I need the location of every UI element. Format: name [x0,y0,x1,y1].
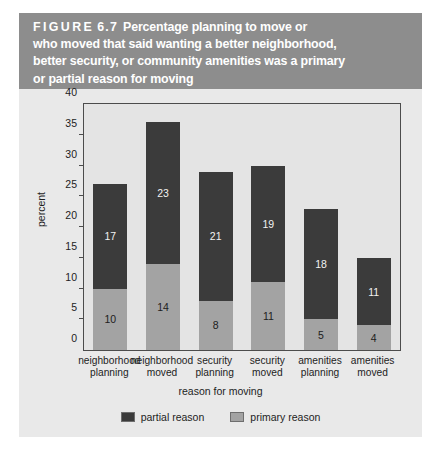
bar-value-label: 14 [146,302,180,313]
bar-value-label: 5 [304,329,338,340]
chart-legend: partial reasonprimary reason [19,411,422,423]
y-axis-tick-label: 40 [65,86,77,98]
y-axis-title: percent [35,192,47,227]
bar-value-label: 19 [251,219,285,230]
bar-group: 1911 [242,104,295,350]
chart-panel: percent 05101520253035401710231421819111… [19,89,422,437]
caption-line-4: or partial reason for moving [33,71,408,88]
y-axis-tick-label: 25 [65,178,77,190]
legend-item[interactable]: primary reason [230,411,320,423]
x-axis-tick-line: amenities [337,355,409,367]
bar-segment-partial[interactable]: 18 [304,209,338,320]
bar-segment-partial[interactable]: 23 [146,122,180,263]
figure-container: FIGURE6.7Percentage planning to move or … [19,13,422,437]
bar-segment-primary[interactable]: 11 [251,282,285,350]
bar-segment-primary[interactable]: 10 [93,289,127,351]
legend-label: partial reason [141,411,205,423]
bar-group: 218 [189,104,242,350]
figure-tag: FIGURE [33,20,94,34]
bar-segment-primary[interactable]: 14 [146,264,180,350]
plot-inner: 0510152025303540171023142181911185114 [84,104,400,350]
caption-line-1: FIGURE6.7Percentage planning to move or [33,19,408,36]
bar-group: 1710 [84,104,137,350]
legend-swatch-icon [230,412,244,422]
caption-text-1: Percentage planning to move or [123,20,307,34]
figure-caption-banner: FIGURE6.7Percentage planning to move or … [19,13,422,89]
y-axis-tick-label: 20 [65,209,77,221]
bar-value-label: 8 [199,320,233,331]
y-axis-tick-label: 5 [71,301,77,313]
legend-label: primary reason [250,411,320,423]
figure-number: 6.7 [97,20,118,34]
stacked-bar[interactable]: 1710 [93,184,127,350]
x-axis-tick-line: moved [337,367,409,379]
bar-value-label: 23 [146,188,180,199]
bar-value-label: 10 [93,314,127,325]
bar-segment-primary[interactable]: 8 [199,301,233,350]
bar-segment-primary[interactable]: 5 [304,319,338,350]
stacked-bar[interactable]: 114 [357,258,391,350]
caption-line-3: better security, or community amenities … [33,53,408,70]
plot-area: 0510152025303540171023142181911185114 [83,103,401,351]
bar-value-label: 11 [357,286,391,297]
caption-line-2: who moved that said wanting a better nei… [33,36,408,53]
bar-value-label: 18 [304,259,338,270]
bar-segment-primary[interactable]: 4 [357,325,391,350]
bar-group: 185 [295,104,348,350]
bar-segment-partial[interactable]: 19 [251,166,285,283]
bar-group: 2314 [137,104,190,350]
y-axis-tick-label: 0 [71,332,77,344]
bar-segment-partial[interactable]: 17 [93,184,127,289]
x-axis-tick-label: amenitiesmoved [337,355,409,380]
bar-value-label: 17 [93,231,127,242]
bar-value-label: 21 [199,231,233,242]
stacked-bar[interactable]: 218 [199,172,233,350]
y-axis-tick-label: 35 [65,117,77,129]
legend-swatch-icon [121,412,135,422]
y-axis-tick-label: 30 [65,148,77,160]
stacked-bar[interactable]: 185 [304,209,338,350]
bar-segment-partial[interactable]: 21 [199,172,233,301]
stacked-bar[interactable]: 1911 [251,166,285,350]
y-axis-tick-label: 15 [65,240,77,252]
y-axis-tick-label: 10 [65,271,77,283]
x-axis-title: reason for moving [19,385,422,397]
stacked-bar[interactable]: 2314 [146,122,180,350]
bar-segment-partial[interactable]: 11 [357,258,391,326]
bar-value-label: 4 [357,332,391,343]
bar-group: 114 [347,104,400,350]
bar-value-label: 11 [251,311,285,322]
legend-item[interactable]: partial reason [121,411,205,423]
